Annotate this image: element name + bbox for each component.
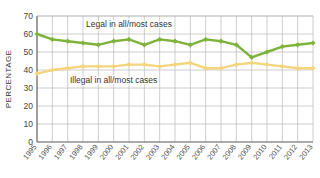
- y-tick-label-70: 70: [24, 11, 34, 21]
- y-tick-label-50: 50: [24, 47, 34, 57]
- y-tick-label-40: 40: [24, 65, 34, 75]
- y-axis-title: PERCENTAGE: [4, 50, 13, 109]
- annotation-legal: Legal in all/most cases: [86, 19, 172, 29]
- y-tick-label-20: 20: [24, 101, 34, 111]
- y-tick-label-60: 60: [24, 29, 34, 39]
- y-tick-label-10: 10: [24, 119, 34, 129]
- annotation-illegal: Illegal in all/most cases: [70, 75, 157, 85]
- line-chart: 010203040506070 199519961997199819992000…: [0, 0, 320, 178]
- chart-container: 010203040506070 199519961997199819992000…: [0, 0, 320, 178]
- y-tick-label-30: 30: [24, 83, 34, 93]
